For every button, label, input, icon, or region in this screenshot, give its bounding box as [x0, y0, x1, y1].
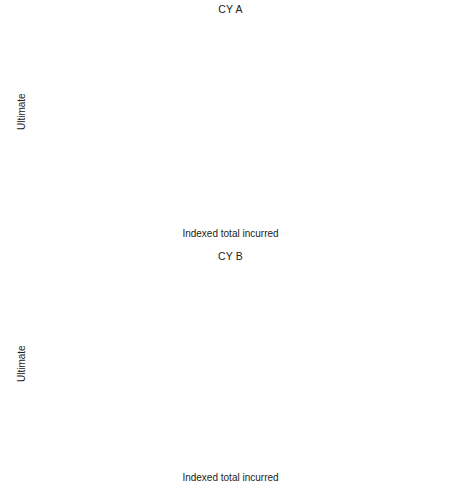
- chart-panel-cy-b: CY B Indexed total incurred Ultimate: [0, 246, 461, 492]
- x-axis-title-cy-a: Indexed total incurred: [0, 228, 461, 239]
- plot-area-cy-b: [0, 246, 461, 492]
- chart-panel-cy-a: CY A Indexed total incurred Ultimate: [0, 0, 461, 246]
- plot-area-cy-a: [0, 0, 461, 246]
- y-axis-title-cy-b: Ultimate: [16, 345, 27, 382]
- x-axis-title-cy-b: Indexed total incurred: [0, 472, 461, 483]
- y-axis-title-cy-a: Ultimate: [16, 93, 27, 130]
